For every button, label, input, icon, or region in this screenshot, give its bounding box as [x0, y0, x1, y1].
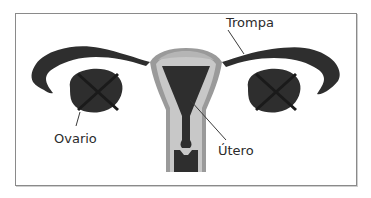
label-tube: Trompa	[225, 15, 274, 54]
tube-leader-line	[228, 30, 244, 54]
ovary-leader-line	[76, 112, 80, 126]
left-ovary	[70, 69, 123, 113]
cervical-canal	[181, 116, 192, 148]
label-ovary: Ovario	[54, 112, 97, 146]
tube-label: Trompa	[225, 15, 274, 30]
ovary-label: Ovario	[54, 131, 97, 146]
reproductive-diagram: Trompa Ovario Útero	[0, 0, 371, 198]
right-ovary	[248, 69, 301, 113]
uterus-label: Útero	[218, 143, 254, 158]
